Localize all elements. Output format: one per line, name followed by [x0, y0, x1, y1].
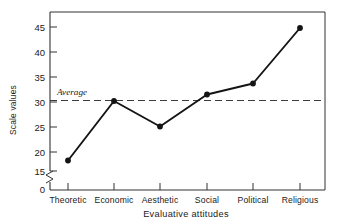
x-label-aesthetic: Aesthetic	[142, 195, 179, 205]
y-tick-label-0: 0	[40, 184, 45, 195]
average-annotation-label: Average	[56, 87, 87, 97]
y-tick-label-45: 45	[34, 22, 45, 33]
x-label-theoretic: Theoretic	[49, 195, 87, 205]
y-tick-label-15: 15	[34, 166, 45, 177]
y-tick-label-25: 25	[34, 122, 45, 133]
y-tick-label-40: 40	[34, 47, 45, 58]
line-chart-figure: 45 40 35 30 25 20 15 0 Scale values Aver…	[0, 0, 342, 224]
x-label-political: Political	[238, 195, 269, 205]
y-tick-label-30: 30	[34, 97, 45, 108]
data-point-theoretic	[65, 158, 71, 164]
x-label-religious: Religious	[282, 195, 319, 205]
data-point-religious	[297, 25, 303, 31]
x-label-economic: Economic	[95, 195, 134, 205]
x-axis-title: Evaluative attitudes	[143, 209, 229, 219]
x-label-social: Social	[195, 195, 219, 205]
y-tick-label-35: 35	[34, 72, 45, 83]
data-point-social	[204, 92, 210, 98]
chart-svg: 45 40 35 30 25 20 15 0 Scale values Aver…	[0, 0, 342, 224]
data-point-political	[250, 81, 256, 87]
data-point-economic	[111, 98, 117, 104]
data-point-aesthetic	[157, 124, 163, 130]
y-tick-label-20: 20	[34, 147, 45, 158]
y-axis-title: Scale values	[8, 85, 18, 135]
